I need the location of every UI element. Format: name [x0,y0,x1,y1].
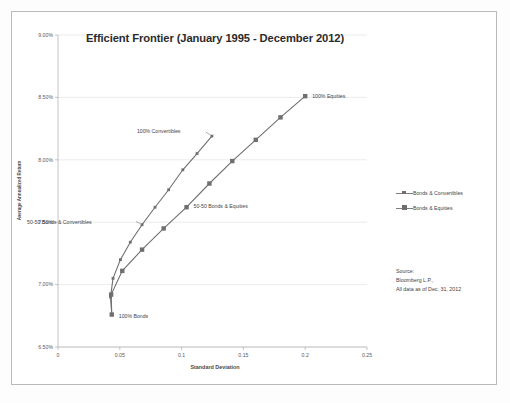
x-axis-title: Standard Deviation [125,364,305,370]
source-line-1: Source: [396,267,461,276]
y-tick-label: 6.50% [19,344,53,350]
data-label-100-convertibles: 100% Convertibles [137,128,181,134]
page-canvas: Efficient Frontier (January 1995 - Decem… [0,0,510,403]
legend-marker-bonds-convertibles [396,189,413,197]
x-tick-label: 0.1 [167,352,197,358]
source-line-3: All data as of Dec. 31, 2012 [396,285,461,294]
legend-label-bonds-equities: Bonds & Equities [413,205,453,211]
x-tick-label: 0.2 [290,352,320,358]
y-axis-title: Average Annualized Return [17,141,22,241]
x-tick-label: 0.25 [352,352,382,358]
axis-lines [55,35,367,350]
y-tick-label: 7.00% [19,281,53,287]
data-label-50-50-bonds-equities: 50-50 Bonds & Equities [194,203,248,209]
data-label-100-bonds: 100% Bonds [119,313,148,319]
chart-legend: Bonds & Convertibles Bonds & Equities [396,189,500,219]
legend-item-bonds-convertibles: Bonds & Convertibles [396,189,500,197]
efficient-frontier-chart: Efficient Frontier (January 1995 - Decem… [0,0,510,403]
x-tick-label: 0.15 [228,352,258,358]
annotation-leader-lines [136,132,210,224]
legend-item-bonds-equities: Bonds & Equities [396,204,500,212]
legend-label-bonds-convertibles: Bonds & Convertibles [413,190,463,196]
y-tick-label: 8.50% [19,94,53,100]
source-note: Source: Bloomberg L.P., All data as of D… [396,267,461,295]
legend-marker-bonds-equities [396,204,413,212]
x-tick-label: 0 [43,352,73,358]
x-tick-label: 0.05 [105,352,135,358]
y-tick-label: 8.00% [19,157,53,163]
data-label-50-50-bonds-convertibles: 50-50 Bonds & Convertibles [27,219,92,225]
gridlines [58,35,367,347]
source-line-2: Bloomberg L.P., [396,276,461,285]
chart-title: Efficient Frontier (January 1995 - Decem… [70,32,360,44]
data-label-100-equities: 100% Equities [312,93,345,99]
y-tick-label: 9.00% [19,32,53,38]
